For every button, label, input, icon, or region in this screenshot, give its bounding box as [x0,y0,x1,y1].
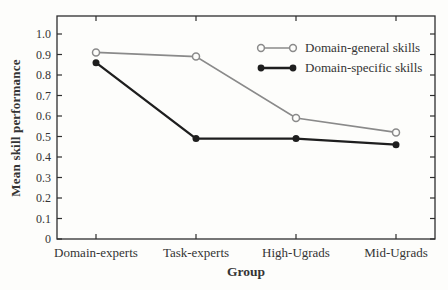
y-tick-label: 0.9 [17,47,51,62]
data-point-domain-specific-skills [393,141,400,148]
data-point-domain-specific-skills [93,59,100,66]
data-point-domain-general-skills [393,129,400,136]
y-tick-label: 0.6 [17,109,51,124]
line-chart-figure: Mean skill performance Group Domain-gene… [0,0,448,290]
y-tick-label: 0.1 [17,211,51,226]
y-tick-label: 1.0 [17,27,51,42]
data-point-domain-general-skills [93,49,100,56]
x-tick-label: Task-experts [141,245,251,261]
x-tick-label: Mid-Ugrads [341,245,448,261]
legend-item-domain-specific: Domain-specific skills [256,59,422,76]
data-point-domain-specific-skills [193,135,200,142]
y-tick-label: 0.2 [17,191,51,206]
data-point-domain-general-skills [193,53,200,60]
legend-label: Domain-specific skills [305,60,422,76]
filled-circle-line-icon [256,62,298,74]
y-tick-label: 0.5 [17,129,51,144]
y-tick-label: 0.4 [17,150,51,165]
x-tick-label: Domain-experts [41,245,151,261]
y-tick-label: 0.8 [17,68,51,83]
legend-label: Domain-general skills [305,40,420,56]
y-tick-label: 0.3 [17,170,51,185]
x-axis-title: Group [57,264,435,280]
legend-item-domain-general: Domain-general skills [256,39,422,56]
legend: Domain-general skills Domain-specific sk… [256,39,422,76]
y-tick-label: 0.7 [17,88,51,103]
open-circle-line-icon [256,42,298,54]
data-point-domain-specific-skills [293,135,300,142]
x-tick-label: High-Ugrads [241,245,351,261]
data-point-domain-general-skills [293,115,300,122]
